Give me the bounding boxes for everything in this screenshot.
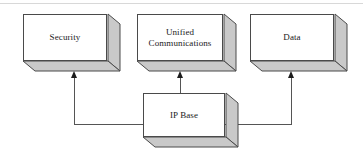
block-label-ip-base: IP Base <box>143 93 225 137</box>
connector-ip-base-to-security-horizontal <box>74 124 143 125</box>
connector-ip-base-to-security-vertical <box>74 78 75 125</box>
diagram-canvas: Security Unified Communications Data <box>0 0 363 164</box>
block-security[interactable]: Security <box>23 14 107 61</box>
arrowhead-data <box>288 71 294 78</box>
top-frame-rule <box>0 3 363 4</box>
block-ip-base[interactable]: IP Base <box>143 93 225 137</box>
block-unified-communications[interactable]: Unified Communications <box>137 14 223 61</box>
block-label-security: Security <box>23 14 107 61</box>
connector-ip-base-to-data-vertical <box>291 78 292 125</box>
arrowhead-security <box>71 71 77 78</box>
block-label-unified-communications: Unified Communications <box>137 14 223 61</box>
block-label-data: Data <box>250 14 334 61</box>
block-data[interactable]: Data <box>250 14 334 61</box>
arrowhead-unified-communications <box>177 71 183 78</box>
